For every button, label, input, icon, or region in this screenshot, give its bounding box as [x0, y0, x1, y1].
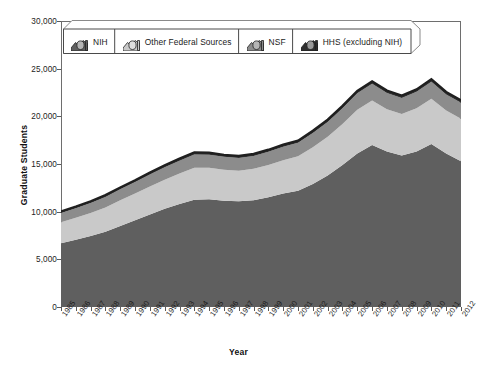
nsf-swatch-icon: [247, 37, 264, 48]
y-tick-label: 25,000: [5, 64, 57, 73]
y-tick-label: 15,000: [5, 160, 57, 169]
y-tick-label: 20,000: [5, 112, 57, 121]
nih-swatch-icon: [71, 37, 88, 48]
legend-label: Other Federal Sources: [145, 37, 232, 47]
area-series-layer: [61, 21, 461, 307]
x-axis-title: Year: [0, 347, 477, 357]
legend-label: NSF: [269, 37, 286, 47]
legend-label: HHS (excluding NIH): [323, 37, 403, 47]
y-tick-label: 10,000: [5, 207, 57, 216]
legend-item-nih: NIH: [63, 20, 115, 55]
other-federal-swatch-icon: [123, 37, 140, 48]
legend-item-hhs-excluding-nih: HHS (excluding NIH): [293, 20, 410, 55]
stacked-area-chart: Graduate Students 05,00010,00015,00020,0…: [0, 0, 477, 366]
chart-legend: NIHOther Federal SourcesNSFHHS (excludin…: [63, 20, 409, 55]
y-tick-label: 30,000: [5, 17, 57, 26]
hhs-swatch-icon: [301, 37, 318, 48]
legend-item-other-federal-sources: Other Federal Sources: [115, 20, 239, 55]
legend-label: NIH: [93, 37, 108, 47]
y-tick-label: 5,000: [5, 255, 57, 264]
legend-item-nsf: NSF: [239, 20, 293, 55]
